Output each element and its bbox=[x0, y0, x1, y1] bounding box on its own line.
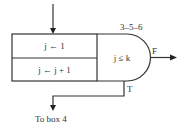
reference-label: 3–5–6 bbox=[120, 22, 143, 32]
true-label: T bbox=[127, 84, 133, 94]
entry-arrow bbox=[50, 4, 56, 34]
exit-target-label: To box 4 bbox=[35, 114, 67, 124]
true-branch-arrow bbox=[50, 81, 124, 111]
false-label: F bbox=[152, 46, 157, 56]
condition-text: j ≤ k bbox=[99, 53, 145, 63]
init-statement: j ← 1 bbox=[12, 41, 97, 51]
increment-statement: j ← j + 1 bbox=[12, 65, 97, 75]
